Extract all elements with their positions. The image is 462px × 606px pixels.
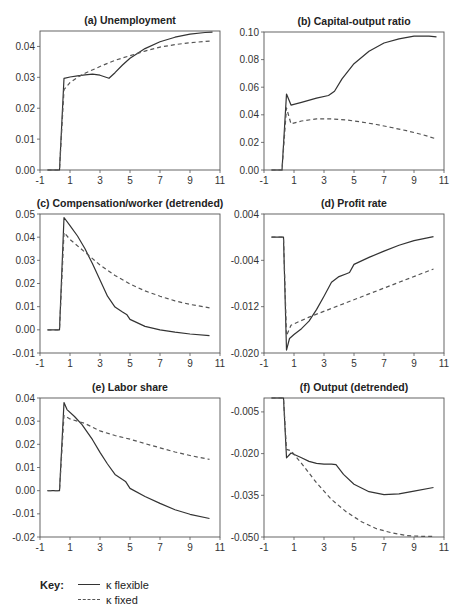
chart-e: (e) Labor share-11357911-0.02-0.010.000.… <box>12 381 225 553</box>
legend-label-fixed: κ fixed <box>106 594 138 606</box>
y-tick-label: 0.00 <box>16 324 36 335</box>
series-line-fixed <box>48 233 210 330</box>
y-tick-label: 0.03 <box>16 416 36 427</box>
x-tick-label: 5 <box>351 358 357 369</box>
series-line-fixed <box>272 237 434 335</box>
chart-title: (a) Unemployment <box>84 14 176 26</box>
x-tick-label: 11 <box>215 358 226 369</box>
y-tick-label: 0.02 <box>16 439 36 450</box>
x-tick-label: 9 <box>187 175 193 186</box>
series-line-fixed <box>272 108 437 170</box>
y-tick-label: -0.050 <box>231 532 260 543</box>
dashed-line-icon <box>78 599 100 600</box>
x-tick-label: 7 <box>157 542 163 553</box>
chart-a: (a) Unemployment-113579110.000.010.020.0… <box>16 14 226 186</box>
x-tick-label: -1 <box>260 175 269 186</box>
legend-label-flexible: κ flexible <box>106 579 149 591</box>
y-tick-label: 0.04 <box>240 109 260 120</box>
x-tick-label: 5 <box>351 542 357 553</box>
key-label: Key: <box>40 579 78 591</box>
x-tick-label: -1 <box>260 542 269 553</box>
series-line-fixed <box>272 398 434 536</box>
x-tick-label: 7 <box>157 175 163 186</box>
y-tick-label: 0.004 <box>234 209 259 220</box>
plot-frame <box>264 214 444 353</box>
y-tick-label: -0.01 <box>12 348 35 359</box>
x-tick-label: 9 <box>411 542 417 553</box>
x-tick-label: 3 <box>97 358 103 369</box>
x-tick-label: 9 <box>187 542 193 553</box>
chart-d: (d) Profit rate-11357911-0.020-0.012-0.0… <box>231 197 450 369</box>
chart-title: (d) Profit rate <box>321 197 387 209</box>
x-tick-label: 11 <box>439 542 450 553</box>
y-tick-label: 0.10 <box>240 27 260 38</box>
x-tick-label: 11 <box>215 542 226 553</box>
plot-frame <box>40 31 220 170</box>
x-tick-label: 9 <box>411 358 417 369</box>
chart-title: (b) Capital-output ratio <box>297 15 410 27</box>
chart-b: (b) Capital-output ratio-113579110.000.0… <box>240 15 450 186</box>
x-tick-label: 5 <box>351 175 357 186</box>
y-tick-label: 0.01 <box>16 134 36 145</box>
x-tick-label: 1 <box>67 175 73 186</box>
legend-row-fixed: κ fixed <box>40 592 149 606</box>
y-tick-label: 0.04 <box>16 393 36 404</box>
y-tick-label: 0.01 <box>16 301 36 312</box>
x-tick-label: 1 <box>67 358 73 369</box>
x-tick-label: 11 <box>439 358 450 369</box>
series-line-fixed <box>48 415 210 490</box>
x-tick-label: -1 <box>260 358 269 369</box>
x-tick-label: 1 <box>291 175 297 186</box>
y-tick-label: 0.00 <box>240 165 260 176</box>
x-tick-label: 3 <box>321 542 327 553</box>
y-tick-label: 0.00 <box>16 485 36 496</box>
x-tick-label: 1 <box>291 542 297 553</box>
x-tick-label: 7 <box>381 175 387 186</box>
y-tick-label: 0.04 <box>16 232 36 243</box>
plot-frame <box>264 398 444 537</box>
plot-frame <box>264 32 444 170</box>
x-tick-label: 11 <box>215 175 226 186</box>
y-tick-label: -0.020 <box>231 448 260 459</box>
figure-panel-grid: (a) Unemployment-113579110.000.010.020.0… <box>0 0 462 606</box>
x-tick-label: 3 <box>97 175 103 186</box>
y-tick-label: -0.012 <box>231 301 260 312</box>
x-tick-label: 3 <box>321 358 327 369</box>
x-tick-label: 1 <box>67 542 73 553</box>
series-line-flexible <box>48 403 210 519</box>
y-tick-label: 0.05 <box>16 209 36 220</box>
chart-f: (f) Output (detrended)-11357911-0.050-0.… <box>231 381 450 553</box>
x-tick-label: 9 <box>187 358 193 369</box>
plot-frame <box>40 398 220 537</box>
x-tick-label: 5 <box>127 358 133 369</box>
y-tick-label: 0.02 <box>16 278 36 289</box>
plot-frame <box>40 214 220 353</box>
x-tick-label: 3 <box>97 542 103 553</box>
series-line-flexible <box>48 218 210 336</box>
y-tick-label: 0.06 <box>240 82 260 93</box>
series-line-flexible <box>272 398 434 495</box>
x-tick-label: 5 <box>127 542 133 553</box>
x-tick-label: 7 <box>157 358 163 369</box>
chart-title: (f) Output (detrended) <box>300 381 408 393</box>
chart-title: (e) Labor share <box>92 381 168 393</box>
y-tick-label: -0.035 <box>231 490 260 501</box>
series-line-flexible <box>272 237 434 351</box>
y-tick-label: 0.02 <box>240 137 260 148</box>
x-tick-label: 7 <box>381 542 387 553</box>
series-line-flexible <box>272 36 437 170</box>
x-tick-label: 11 <box>439 175 450 186</box>
x-tick-label: 5 <box>127 175 133 186</box>
y-tick-label: 0.03 <box>16 255 36 266</box>
y-tick-label: 0.03 <box>16 72 36 83</box>
y-tick-label: 0.00 <box>16 165 36 176</box>
y-tick-label: -0.02 <box>12 532 35 543</box>
x-tick-label: -1 <box>36 542 45 553</box>
x-tick-label: -1 <box>36 175 45 186</box>
y-tick-label: -0.020 <box>231 348 260 359</box>
series-line-fixed <box>48 41 213 170</box>
legend-row-flexible: Key: κ flexible <box>40 577 149 592</box>
x-tick-label: 3 <box>321 175 327 186</box>
y-tick-label: 0.02 <box>16 103 36 114</box>
series-line-flexible <box>48 32 213 170</box>
